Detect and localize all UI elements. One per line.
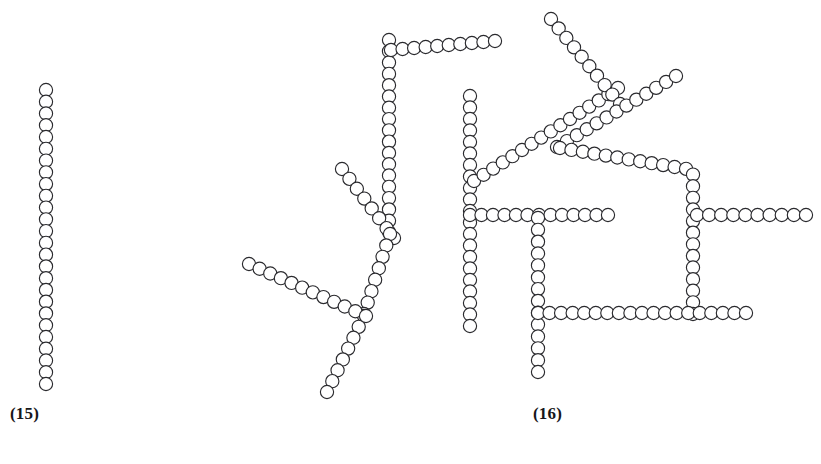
- bead-chain: [357, 227, 396, 320]
- figure-label-15: (15): [10, 404, 39, 424]
- chain-bead: [531, 294, 544, 307]
- figure-label-16: (16): [533, 404, 562, 424]
- bead-chain: [690, 208, 812, 221]
- chain-bead: [787, 208, 800, 221]
- chain-bead: [463, 319, 476, 332]
- bead-chain: [467, 81, 624, 187]
- chain-bead: [739, 208, 752, 221]
- chain-bead: [531, 354, 544, 367]
- chain-bead: [690, 208, 703, 221]
- bead-chain: [384, 34, 501, 56]
- chain-bead: [763, 208, 776, 221]
- chain-bead: [531, 211, 544, 224]
- bead-chain: [39, 83, 52, 390]
- chain-bead: [799, 208, 812, 221]
- chain-figure-canvas: [0, 0, 821, 464]
- chain-bead: [531, 365, 544, 378]
- chain-bead: [703, 208, 716, 221]
- bead-chain: [320, 309, 370, 398]
- bead-chain: [544, 12, 626, 110]
- chain-bead: [751, 208, 764, 221]
- chain-bead: [601, 208, 614, 221]
- chain-bead: [531, 330, 544, 343]
- chain-bead: [531, 259, 544, 272]
- bead-chain: [531, 306, 752, 319]
- chain-bead: [320, 385, 333, 398]
- chain-bead: [739, 306, 752, 319]
- chain-bead: [488, 34, 501, 47]
- bead-chain: [531, 211, 544, 378]
- chain-bead: [669, 69, 682, 82]
- chain-bead: [531, 342, 544, 355]
- chain-bead: [359, 309, 372, 322]
- chain-bead: [531, 223, 544, 236]
- chain-bead: [715, 208, 728, 221]
- chain-bead: [727, 208, 740, 221]
- chain-bead: [531, 271, 544, 284]
- bead-chains-group: [39, 12, 812, 398]
- bead-chain: [242, 257, 372, 322]
- chain-bead: [39, 377, 52, 390]
- bead-chain: [382, 33, 395, 238]
- chain-bead: [531, 235, 544, 248]
- bead-chain: [553, 141, 699, 320]
- chain-bead: [775, 208, 788, 221]
- chain-bead: [531, 282, 544, 295]
- chain-bead: [531, 247, 544, 260]
